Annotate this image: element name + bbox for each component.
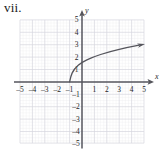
y-tick-label: –3 — [71, 115, 80, 124]
x-tick-label: 1 — [93, 85, 97, 94]
x-tick-label: –4 — [28, 85, 37, 94]
y-tick-label: 3 — [75, 40, 79, 49]
y-tick-label: –5 — [71, 139, 80, 148]
x-tick-label: –3 — [40, 85, 49, 94]
x-tick-label: –5 — [15, 85, 24, 94]
y-tick-label: 5 — [75, 15, 79, 24]
y-axis — [79, 10, 85, 149]
y-tick-label: –1 — [71, 90, 80, 99]
x-tick-label: –2 — [52, 85, 61, 94]
x-axis-label: x — [154, 72, 159, 81]
y-tick-labels-negative: –1 –2 –3 –4 –5 — [71, 90, 80, 148]
coordinate-plot: x y –5 –4 –3 –2 –1 1 2 3 4 5 5 4 3 2 1 — [0, 0, 164, 157]
y-tick-label: –4 — [71, 127, 80, 136]
figure-panel: vii. — [0, 0, 164, 157]
x-tick-label: 2 — [105, 85, 109, 94]
curve-series — [70, 44, 145, 82]
y-tick-label: –2 — [71, 102, 80, 111]
x-tick-label: 4 — [130, 85, 134, 94]
y-tick-label: 2 — [75, 53, 79, 62]
y-axis-label: y — [84, 6, 89, 15]
x-tick-label: 5 — [142, 85, 146, 94]
x-tick-labels-negative: –5 –4 –3 –2 –1 — [15, 85, 73, 94]
x-tick-label: 3 — [117, 85, 121, 94]
y-tick-label: 4 — [75, 28, 79, 37]
